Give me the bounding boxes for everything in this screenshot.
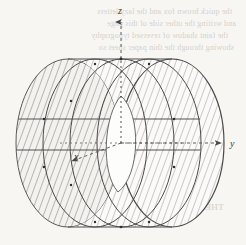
x-axis-label: x [73,151,79,162]
bleed-line-3: the faint shadow of reversed typography [91,31,228,40]
y-axis-label: y [229,138,235,149]
z-axis-label: z [117,5,122,16]
bleed-line-4: showing through the thin paper sheet so [99,43,234,52]
cylinder-diagram: the quick brown fox and the lazy letters… [0,0,246,245]
cylinder-far-end-cap [16,59,120,227]
figure-root: the quick brown fox and the lazy letters… [0,0,246,245]
bleed-line-2: and writing the other side of this page [107,19,236,28]
